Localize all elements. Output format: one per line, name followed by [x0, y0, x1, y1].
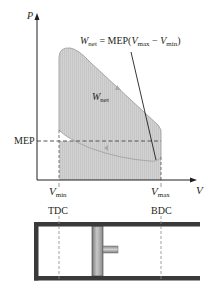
- bdc-label: BDC: [151, 206, 172, 216]
- equation-label: Wnet = MEP(Vmax − Vmin): [80, 36, 181, 48]
- p-axis-arrow-icon: [35, 13, 40, 20]
- piston-cylinder: [34, 216, 200, 281]
- piston-head: [92, 227, 103, 277]
- p-axis-label: P: [27, 11, 33, 21]
- v-axis-label: V: [196, 185, 203, 196]
- vmax-label: Vmax: [151, 186, 170, 199]
- cylinder-head-wall: [34, 222, 39, 281]
- wnet-label: Wnet: [92, 92, 109, 104]
- piston-rod: [103, 246, 118, 253]
- tdc-label: TDC: [48, 206, 68, 216]
- mep-label: MEP: [14, 136, 35, 146]
- v-axis-arrow-icon: [190, 178, 197, 183]
- vmin-label: Vmin: [49, 186, 67, 199]
